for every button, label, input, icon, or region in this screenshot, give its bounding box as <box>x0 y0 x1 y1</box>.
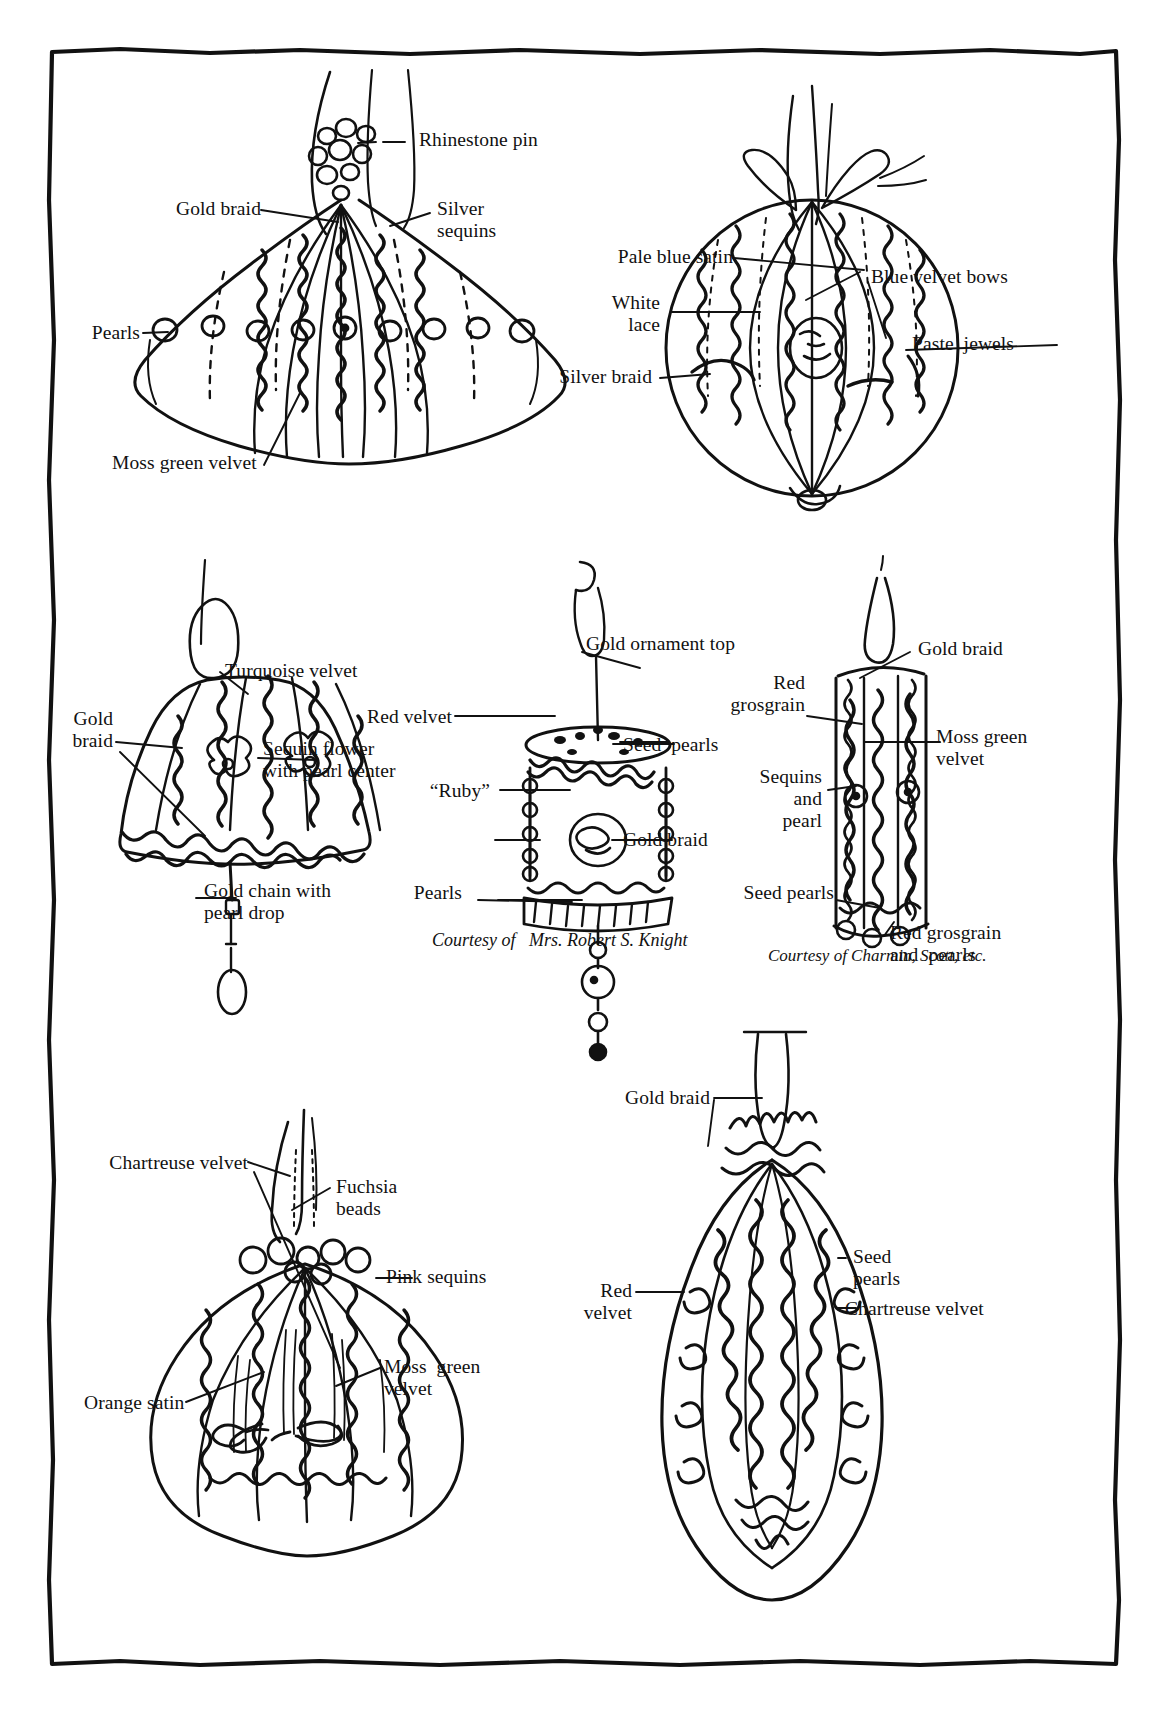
diagram-plate: Rhinestone pin Gold braid Silver sequins… <box>0 0 1168 1716</box>
label-red-velvet-spindle: Red velvet <box>556 1280 632 1324</box>
label-paste-jewels: Paste jewels <box>912 333 1014 355</box>
label-seed-pearls-spindle: Seed pearls <box>853 1246 900 1290</box>
label-rhinestone-pin: Rhinestone pin <box>419 129 538 151</box>
label-gold-ornament-top: Gold ornament top <box>586 633 735 655</box>
label-pink-sequins: Pink sequins <box>386 1266 486 1288</box>
label-chartreuse-velvet-spindle: Chartreuse velvet <box>845 1298 984 1320</box>
label-silver-braid: Silver braid <box>500 366 652 388</box>
label-ruby: “Ruby” <box>350 780 490 802</box>
label-seed-pearls-drum: Seed pearls <box>623 734 718 756</box>
label-fuchsia-beads: Fuchsia beads <box>336 1176 397 1220</box>
caption-knight: Courtesy of Mrs. Robert S. Knight <box>432 930 688 951</box>
label-moss-green-velvet-onion: Moss green velvet <box>112 452 257 474</box>
label-sequins-and-pearl: Sequins and pearl <box>690 766 822 831</box>
label-gold-braid-bell: Gold braid <box>10 708 113 752</box>
label-moss-green-velvet-column: Moss green velvet <box>936 726 1027 770</box>
label-pearls-onion: Pearls <box>0 322 140 344</box>
label-red-velvet-drum: Red velvet <box>330 706 452 728</box>
label-gold-braid-onion: Gold braid <box>86 198 261 220</box>
label-seed-pearls-column: Seed pearls <box>686 882 834 904</box>
label-orange-satin: Orange satin <box>84 1392 184 1414</box>
label-gold-braid-column: Gold braid <box>918 638 1003 660</box>
label-pale-blue-satin: Pale blue satin <box>495 246 733 268</box>
label-sequin-flower: Sequin flower with pearl center <box>263 738 396 782</box>
label-pearls-drum: Pearls <box>340 882 462 904</box>
label-red-grosgrain: Red grosgrain <box>700 672 805 716</box>
label-chartreuse-velvet-ball: Chartreuse velvet <box>60 1152 248 1174</box>
caption-charmin: Courtesy of Charmin, Scott, etc. <box>768 946 987 966</box>
label-gold-chain-pearl-drop: Gold chain with pearl drop <box>204 880 331 924</box>
label-blue-velvet-bows: Blue velvet bows <box>871 266 1008 288</box>
label-gold-braid-drum: Gold braid <box>623 829 708 851</box>
label-gold-braid-spindle: Gold braid <box>550 1087 710 1109</box>
label-white-lace: White lace <box>530 292 660 336</box>
label-silver-sequins: Silver sequins <box>437 198 496 242</box>
label-turquoise-velvet: Turquoise velvet <box>225 660 358 682</box>
label-moss-green-velvet-ball: Moss green velvet <box>384 1356 480 1400</box>
